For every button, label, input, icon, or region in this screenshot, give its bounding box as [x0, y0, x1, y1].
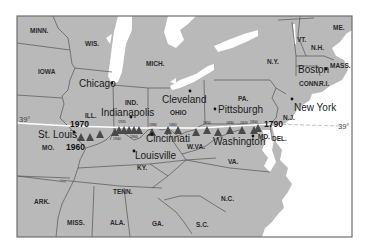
state-label-va: VA.: [228, 158, 239, 165]
latitude-label-left: 39°: [19, 115, 30, 124]
state-label-nh: N.H.: [311, 44, 324, 51]
year-label-small: 1900: [130, 135, 138, 139]
state-label-mich: MICH.: [146, 60, 165, 67]
state-label-ga: GA.: [152, 220, 164, 227]
state-label-mass: MASS.: [330, 62, 351, 69]
state-label-nc: N.C.: [221, 195, 234, 202]
state-label-mo: MO.: [42, 144, 54, 151]
state-label-del: DEL.: [272, 135, 287, 142]
city-dot-new-york: [291, 98, 294, 101]
city-label-cleveland: Cleveland: [162, 94, 206, 105]
state-label-wis: WIS.: [85, 40, 99, 47]
state-label-sc: S.C.: [196, 221, 209, 228]
year-label-small: 1920: [118, 120, 126, 124]
state-label-tenn: TENN.: [113, 188, 133, 195]
state-label-nj: N.J.: [283, 114, 295, 121]
year-label-small: 1820: [240, 121, 248, 125]
city-label-st-louis: St. Louis: [38, 129, 77, 140]
city-label-boston: Boston: [298, 64, 329, 75]
city-label-indianapolis: Indianapolis: [101, 107, 154, 118]
state-label-ohio: OHIO: [170, 109, 187, 116]
year-label-small: 1940: [113, 137, 121, 141]
year-label-small: 1800: [250, 120, 258, 124]
state-label-ky: KY.: [137, 164, 147, 171]
state-label-ill: ILL.: [85, 112, 97, 119]
state-label-pa: PA.: [238, 95, 249, 102]
city-label-new-york: New York: [294, 102, 337, 113]
state-label-me: ME.: [333, 24, 345, 31]
latitude-label-right: 39°: [338, 122, 349, 131]
city-label-louisville: Louisville: [135, 150, 177, 161]
state-label-miss: MISS.: [67, 219, 85, 226]
city-label-pittsburgh: Pittsburgh: [218, 104, 263, 115]
year-label-small: 1830: [226, 121, 234, 125]
state-label-conn: CONN.: [299, 80, 320, 87]
state-label-vt: VT.: [297, 36, 307, 43]
city-label-washington: Washington: [213, 136, 265, 147]
state-label-iowa: IOWA: [38, 68, 56, 75]
state-label-ind: IND.: [125, 99, 138, 106]
year-label-small: 1850: [203, 121, 211, 125]
city-label-cincinnati: Cincinnati: [146, 133, 190, 144]
state-label-ala: ALA.: [110, 219, 125, 226]
state-label-ri: R.I.: [319, 80, 329, 87]
city-dot-pittsburgh: [214, 108, 217, 111]
year-label-1970: 1970: [70, 119, 89, 129]
city-label-chicago: Chicago: [79, 78, 116, 89]
state-label-minn: MINN.: [30, 27, 49, 34]
state-label-ny: N.Y.: [267, 58, 279, 65]
state-label-ark: ARK.: [34, 198, 50, 205]
year-label-small: 1880: [149, 123, 157, 127]
year-label-1960: 1960: [66, 142, 85, 152]
year-label-small: 1860: [169, 123, 177, 127]
year-label-1790: 1790: [264, 119, 283, 129]
state-label-wva: W.VA.: [187, 143, 205, 150]
population-center-map: MINN. WIS. MICH. IOWA ILL. IND. OHIO PA.…: [0, 0, 368, 250]
city-dot-cleveland: [189, 90, 192, 93]
